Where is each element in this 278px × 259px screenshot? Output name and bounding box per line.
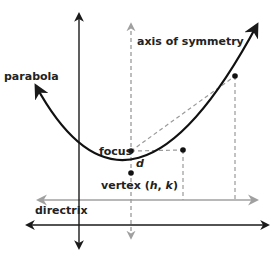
axis-of-symmetry-label: axis of symmetry xyxy=(137,35,244,48)
distance-d-label: d xyxy=(136,157,144,170)
point-b xyxy=(232,73,238,79)
parabola-diagram: parabola axis of symmetry focus d vertex… xyxy=(0,0,278,259)
vertex-label-h: h xyxy=(150,179,158,192)
parabola-label: parabola xyxy=(4,70,59,83)
point-a xyxy=(180,147,186,153)
vertex-label: vertex (h, k) xyxy=(101,179,178,192)
vertex-label-sep: , xyxy=(158,179,166,192)
directrix-label: directrix xyxy=(35,204,88,217)
vertex-label-prefix: vertex ( xyxy=(101,179,150,192)
vertex-point xyxy=(128,170,134,176)
focus-label: focus xyxy=(99,145,133,158)
vertex-label-suffix: ) xyxy=(173,179,178,192)
